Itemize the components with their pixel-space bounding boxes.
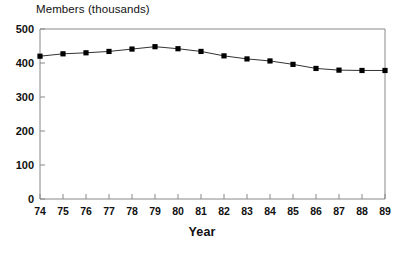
data-point-marker (313, 66, 318, 71)
chart-figure: Members (thousands) 0100200300400500 747… (0, 0, 404, 256)
data-point-marker (106, 49, 111, 54)
x-axis-title: Year (0, 225, 404, 239)
series-line (40, 47, 385, 71)
data-point-marker (382, 68, 387, 73)
data-point-marker (198, 49, 203, 54)
data-point-marker (359, 68, 364, 73)
line-plot (0, 0, 404, 256)
data-point-marker (129, 46, 134, 51)
data-point-marker (267, 58, 272, 63)
data-point-marker (336, 68, 341, 73)
data-point-marker (83, 50, 88, 55)
data-point-marker (152, 44, 157, 49)
data-point-marker (60, 51, 65, 56)
data-point-marker (221, 53, 226, 58)
data-point-marker (244, 56, 249, 61)
data-point-marker (175, 46, 180, 51)
data-point-marker (290, 62, 295, 67)
plot-frame (40, 29, 385, 199)
data-point-marker (37, 54, 42, 59)
